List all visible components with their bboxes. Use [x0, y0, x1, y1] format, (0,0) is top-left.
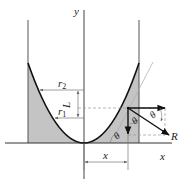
- x-dimension-label: x: [102, 149, 108, 161]
- resultant-label: R: [170, 130, 178, 142]
- y-axis-label: y: [73, 5, 79, 17]
- theta-label-right: θ: [147, 109, 158, 121]
- r2-label: r2: [58, 77, 66, 91]
- l-label: L: [60, 102, 72, 109]
- parabola-diagram: y x r2 r1 L x θ θ θ R: [0, 0, 186, 179]
- left-shaded-region: [28, 63, 84, 143]
- theta-arc-right: [160, 108, 162, 121]
- x-axis-label: x: [159, 150, 165, 162]
